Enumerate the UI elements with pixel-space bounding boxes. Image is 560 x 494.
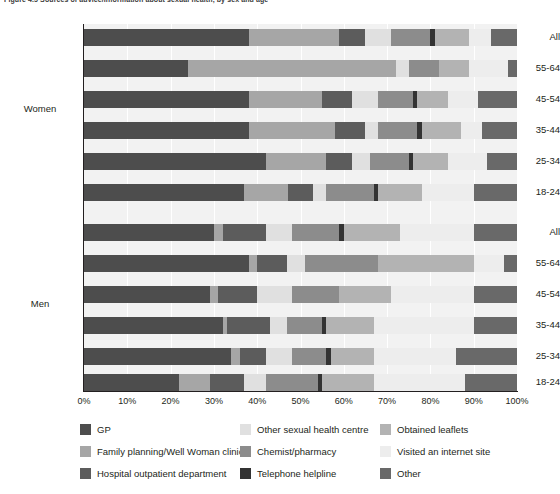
legend-item[interactable]: Hospital outpatient department <box>80 468 226 479</box>
legend-swatch-gp <box>80 424 91 435</box>
stacked-bar-row <box>84 374 517 391</box>
x-axis-tick-label: 40% <box>237 396 277 406</box>
stacked-bar-row <box>84 153 517 170</box>
bar-segment <box>257 255 287 272</box>
gridline <box>474 24 475 392</box>
x-axis-tick-label: 70% <box>367 396 407 406</box>
bar-segment <box>370 153 409 170</box>
y-axis-category-label: 55-64 <box>482 62 560 73</box>
bar-segment <box>292 286 340 303</box>
legend-swatch-obtained-leaflets <box>380 424 391 435</box>
bar-segment <box>417 91 447 108</box>
bar-segment <box>344 224 400 241</box>
gridline <box>387 24 388 392</box>
x-axis-tick-label: 80% <box>410 396 450 406</box>
bar-segment <box>292 348 327 365</box>
legend-item[interactable]: Obtained leaflets <box>380 424 468 435</box>
bar-segment <box>374 348 456 365</box>
bar-segment <box>210 286 219 303</box>
bar-segment <box>391 286 473 303</box>
legend-item[interactable]: Telephone helpline <box>240 468 336 479</box>
legend-item-label: Visited an internet site <box>397 446 490 457</box>
legend-item-label: Chemist/pharmacy <box>257 446 336 457</box>
bar-segment <box>84 317 223 334</box>
legend-item[interactable]: Other sexual health centre <box>240 424 368 435</box>
plot-area <box>84 24 517 392</box>
bar-segment <box>326 184 374 201</box>
bar-segment <box>365 122 378 139</box>
y-axis-category-label: All <box>482 31 560 42</box>
y-axis-group-label: Women <box>14 103 66 114</box>
legend-item-label: Other <box>397 468 421 479</box>
x-axis-tick-label: 50% <box>281 396 321 406</box>
bar-segment <box>84 122 249 139</box>
bar-segment <box>84 255 249 272</box>
y-axis-category-label: 45-54 <box>482 93 560 104</box>
bar-segment <box>331 348 374 365</box>
legend-swatch-chemist-pharmacy <box>240 446 251 457</box>
x-axis-tick-label: 0% <box>64 396 104 406</box>
legend-item-label: Hospital outpatient department <box>97 468 226 479</box>
bar-segment <box>378 255 473 272</box>
y-axis-category-label: All <box>482 226 560 237</box>
legend-item[interactable]: Chemist/pharmacy <box>240 446 336 457</box>
legend-item[interactable]: Other <box>380 468 421 479</box>
legend-item[interactable]: Visited an internet site <box>380 446 490 457</box>
bar-segment <box>266 348 292 365</box>
bar-segment <box>84 374 179 391</box>
legend-item[interactable]: Family planning/Well Woman clinic <box>80 446 243 457</box>
bar-segment <box>305 255 379 272</box>
stacked-bar-row <box>84 286 517 303</box>
legend-item-label: Telephone helpline <box>257 468 336 479</box>
bar-segment <box>322 91 352 108</box>
legend-item-label: Other sexual health centre <box>257 424 368 435</box>
legend-item-label: Family planning/Well Woman clinic <box>97 446 243 457</box>
gridline <box>301 24 302 392</box>
legend-swatch-internet-site <box>380 446 391 457</box>
y-axis-line <box>83 24 84 392</box>
bar-segment <box>214 224 223 241</box>
chart-legend: GPOther sexual health centreObtained lea… <box>0 420 560 494</box>
bar-segment <box>266 153 327 170</box>
bar-segment <box>227 317 270 334</box>
x-axis-tick-label: 20% <box>151 396 191 406</box>
bar-segment <box>374 374 465 391</box>
bar-segment <box>84 29 249 46</box>
bar-segment <box>84 224 214 241</box>
bar-segment <box>84 348 231 365</box>
bar-segment <box>249 29 340 46</box>
bar-segment <box>422 122 461 139</box>
gridline <box>127 24 128 392</box>
bar-segment <box>352 91 378 108</box>
stacked-bar-row <box>84 348 517 365</box>
stacked-bar-row <box>84 184 517 201</box>
stacked-bar-row <box>84 255 517 272</box>
legend-swatch-other <box>380 468 391 479</box>
bar-segment <box>422 184 474 201</box>
bar-segment <box>249 255 258 272</box>
y-axis-category-label: 25-34 <box>482 155 560 166</box>
bar-segment <box>339 286 391 303</box>
x-axis-tick-label: 30% <box>194 396 234 406</box>
y-axis-group-label: Men <box>14 298 66 309</box>
legend-swatch-telephone-helpline <box>240 468 251 479</box>
legend-item[interactable]: GP <box>80 424 111 435</box>
legend-swatch-family-planning <box>80 446 91 457</box>
gridline <box>430 24 431 392</box>
bar-segment <box>374 317 474 334</box>
gridline <box>517 24 518 392</box>
y-axis-category-label: 45-54 <box>482 288 560 299</box>
legend-item-label: Obtained leaflets <box>397 424 468 435</box>
chart-plot-wrapper: 0%10%20%30%40%50%60%70%80%90%100%All55-6… <box>0 0 560 412</box>
y-axis-category-label: 25-34 <box>482 350 560 361</box>
bar-segment <box>339 29 365 46</box>
bar-segment <box>179 374 209 391</box>
bar-segment <box>244 374 266 391</box>
stacked-bar-row <box>84 317 517 334</box>
bar-segment <box>400 224 474 241</box>
x-axis-tick-label: 90% <box>454 396 494 406</box>
gridline <box>171 24 172 392</box>
bar-segment <box>244 184 287 201</box>
bar-segment <box>326 153 352 170</box>
stacked-bar-row <box>84 224 517 241</box>
